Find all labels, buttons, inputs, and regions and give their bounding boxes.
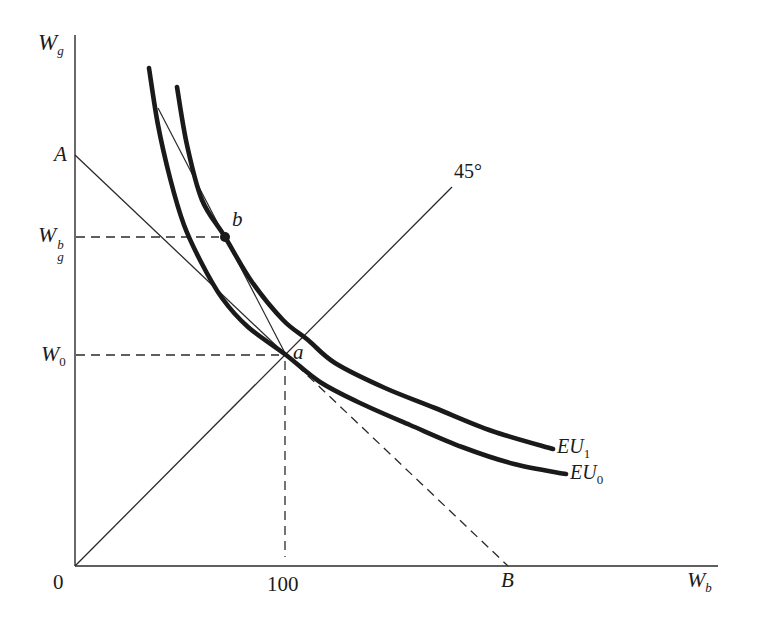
- budget-line-solid-segment: [75, 155, 286, 355]
- point-a-label: a: [293, 342, 304, 363]
- diagram-plot: [0, 0, 757, 634]
- x-axis-label-sub: b: [705, 580, 712, 595]
- certainty-45deg-line: [75, 187, 452, 566]
- w0-label-base: W: [41, 341, 59, 366]
- point-b-dot: [220, 232, 230, 242]
- y-axis-label: Wg: [38, 31, 64, 54]
- eu1-label-sub: 1: [584, 446, 591, 461]
- wgb-label-sub: g: [57, 251, 64, 263]
- x-axis-label-base: W: [687, 567, 705, 592]
- y-axis-label-sub: g: [57, 43, 64, 58]
- deg45-label: 45°: [454, 161, 482, 181]
- w0-label-sub: 0: [59, 354, 66, 369]
- eu1-indifference-curve: [177, 87, 553, 449]
- eu1-label-base: EU: [557, 435, 584, 457]
- eu1-label: EU1: [557, 436, 590, 456]
- eu0-indifference-curve: [149, 68, 566, 474]
- x-axis-label: Wb: [687, 569, 712, 591]
- wgb-label: Wbg: [38, 224, 64, 264]
- w0-label: W0: [41, 343, 66, 365]
- budget-line-dashed-segment: [286, 355, 508, 566]
- eu0-label: EU0: [570, 462, 603, 482]
- point-b-label: b: [232, 209, 243, 230]
- eu0-label-sub: 0: [597, 472, 604, 487]
- eu0-label-base: EU: [570, 461, 597, 483]
- x-100-label: 100: [267, 574, 299, 595]
- figure-canvas: Wg A Wbg W0 0 100 B Wb 45° a b EU1 EU0: [0, 0, 757, 634]
- intercept-b-label: B: [501, 570, 514, 591]
- origin-label: 0: [53, 572, 64, 593]
- y-axis-label-base: W: [38, 30, 57, 55]
- wgb-label-scripts: bg: [57, 239, 64, 264]
- wgb-label-base: W: [38, 222, 56, 247]
- intercept-a-label: A: [54, 144, 67, 165]
